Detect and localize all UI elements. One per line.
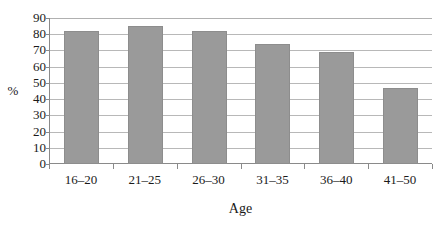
x-axis-tick (177, 164, 178, 169)
x-axis-tick-labels: 16–20 21–25 26–30 31–35 36–40 41–50 (49, 172, 432, 188)
x-axis-ticks (49, 164, 432, 169)
x-axis-tick-label: 36–40 (304, 172, 368, 188)
x-axis-tick (368, 164, 369, 169)
x-axis-tick (241, 164, 242, 169)
x-axis-tick (432, 164, 433, 169)
y-axis-tick-label: 40 (16, 92, 46, 105)
bar-slot (50, 18, 114, 164)
bar-slot (368, 18, 432, 164)
x-axis-tick-label: 21–25 (113, 172, 177, 188)
x-axis-tick (304, 164, 305, 169)
bar-slot (305, 18, 369, 164)
x-axis-tick-label: 31–35 (240, 172, 304, 188)
bar-chart: % 90 80 70 60 50 40 30 20 10 0 (0, 0, 440, 229)
y-axis-tick-label: 70 (16, 43, 46, 56)
y-axis-tick-label: 60 (16, 60, 46, 73)
x-axis-title: Age (49, 201, 432, 217)
y-axis-tick-label: 10 (16, 141, 46, 154)
x-axis-tick (49, 164, 50, 169)
bar-slot (241, 18, 305, 164)
bar (319, 52, 354, 164)
y-axis-tick-label: 90 (16, 11, 46, 24)
bar (64, 31, 99, 164)
bar-series (50, 18, 432, 164)
y-axis-tick-label: 0 (16, 157, 46, 170)
y-axis-tick-label: 50 (16, 76, 46, 89)
x-axis-tick-label: 41–50 (368, 172, 432, 188)
x-axis-tick-label: 16–20 (49, 172, 113, 188)
bar (128, 26, 163, 164)
y-axis-tick-labels: 90 80 70 60 50 40 30 20 10 0 (16, 0, 46, 229)
bar-slot (177, 18, 241, 164)
plot-area (49, 18, 432, 164)
bar (192, 31, 227, 164)
y-axis-tick-label: 20 (16, 125, 46, 138)
y-axis-tick-label: 30 (16, 108, 46, 121)
bar-slot (114, 18, 178, 164)
x-axis-tick (113, 164, 114, 169)
bar (255, 44, 290, 164)
bar (383, 88, 418, 164)
y-axis-tick-label: 80 (16, 27, 46, 40)
x-axis-tick-label: 26–30 (177, 172, 241, 188)
